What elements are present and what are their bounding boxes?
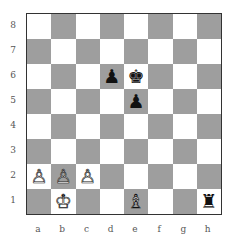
square-h3[interactable] (197, 139, 221, 164)
rank-label-4: 4 (8, 120, 18, 130)
square-g2[interactable] (173, 164, 197, 189)
file-label-c: c (75, 224, 99, 234)
square-a5[interactable] (27, 89, 51, 114)
square-g3[interactable] (173, 139, 197, 164)
square-b1[interactable]: ♔ (51, 189, 75, 214)
square-d3[interactable] (100, 139, 124, 164)
file-label-b: b (50, 224, 74, 234)
square-g7[interactable] (173, 39, 197, 64)
square-d4[interactable] (100, 114, 124, 139)
square-d2[interactable] (100, 164, 124, 189)
rank-label-3: 3 (8, 145, 18, 155)
square-h4[interactable] (197, 114, 221, 139)
square-f8[interactable] (148, 14, 172, 39)
square-c5[interactable] (76, 89, 100, 114)
square-f1[interactable] (148, 189, 172, 214)
square-f6[interactable] (148, 64, 172, 89)
square-c4[interactable] (76, 114, 100, 139)
square-b3[interactable] (51, 139, 75, 164)
square-c8[interactable] (76, 14, 100, 39)
rank-label-1: 1 (8, 195, 18, 205)
square-b6[interactable] (51, 64, 75, 89)
square-b2[interactable]: ♙ (51, 164, 75, 189)
square-d5[interactable] (100, 89, 124, 114)
black-pawn-icon[interactable]: ♟ (103, 67, 120, 86)
square-g6[interactable] (173, 64, 197, 89)
white-pawn-icon[interactable]: ♙ (55, 167, 72, 186)
rank-label-5: 5 (8, 95, 18, 105)
square-h8[interactable] (197, 14, 221, 39)
file-label-d: d (99, 224, 123, 234)
rank-label-8: 8 (8, 20, 18, 30)
white-pawn-icon[interactable]: ♙ (79, 167, 96, 186)
square-h2[interactable] (197, 164, 221, 189)
square-c3[interactable] (76, 139, 100, 164)
square-h7[interactable] (197, 39, 221, 64)
rank-label-2: 2 (8, 170, 18, 180)
square-h1[interactable]: ♜ (197, 189, 221, 214)
chess-board[interactable]: ♟♚♟♙♙♙♔♗♜ (26, 13, 222, 215)
square-c1[interactable] (76, 189, 100, 214)
square-f5[interactable] (148, 89, 172, 114)
square-e3[interactable] (124, 139, 148, 164)
square-e7[interactable] (124, 39, 148, 64)
square-e6[interactable]: ♚ (124, 64, 148, 89)
file-label-f: f (147, 224, 171, 234)
black-rook-icon[interactable]: ♜ (200, 192, 217, 211)
white-pawn-icon[interactable]: ♙ (31, 167, 48, 186)
square-f4[interactable] (148, 114, 172, 139)
square-a7[interactable] (27, 39, 51, 64)
square-f7[interactable] (148, 39, 172, 64)
square-d6[interactable]: ♟ (100, 64, 124, 89)
square-a2[interactable]: ♙ (27, 164, 51, 189)
white-king-icon[interactable]: ♔ (55, 192, 72, 211)
square-e4[interactable] (124, 114, 148, 139)
square-h5[interactable] (197, 89, 221, 114)
square-a4[interactable] (27, 114, 51, 139)
square-g4[interactable] (173, 114, 197, 139)
square-e8[interactable] (124, 14, 148, 39)
square-b5[interactable] (51, 89, 75, 114)
square-h6[interactable] (197, 64, 221, 89)
rank-label-7: 7 (8, 45, 18, 55)
square-e5[interactable]: ♟ (124, 89, 148, 114)
square-c7[interactable] (76, 39, 100, 64)
file-label-h: h (196, 224, 220, 234)
square-c6[interactable] (76, 64, 100, 89)
square-a6[interactable] (27, 64, 51, 89)
square-b4[interactable] (51, 114, 75, 139)
black-king-icon[interactable]: ♚ (128, 67, 145, 86)
square-a1[interactable] (27, 189, 51, 214)
square-c2[interactable]: ♙ (76, 164, 100, 189)
square-b7[interactable] (51, 39, 75, 64)
file-label-g: g (172, 224, 196, 234)
square-e1[interactable]: ♗ (124, 189, 148, 214)
square-d8[interactable] (100, 14, 124, 39)
square-f2[interactable] (148, 164, 172, 189)
square-d1[interactable] (100, 189, 124, 214)
square-a8[interactable] (27, 14, 51, 39)
square-d7[interactable] (100, 39, 124, 64)
square-b8[interactable] (51, 14, 75, 39)
square-f3[interactable] (148, 139, 172, 164)
white-bishop-icon[interactable]: ♗ (128, 192, 145, 211)
file-label-a: a (26, 224, 50, 234)
rank-label-6: 6 (8, 70, 18, 80)
black-pawn-icon[interactable]: ♟ (128, 92, 145, 111)
square-a3[interactable] (27, 139, 51, 164)
square-g8[interactable] (173, 14, 197, 39)
square-e2[interactable] (124, 164, 148, 189)
square-g5[interactable] (173, 89, 197, 114)
file-label-e: e (123, 224, 147, 234)
square-g1[interactable] (173, 189, 197, 214)
